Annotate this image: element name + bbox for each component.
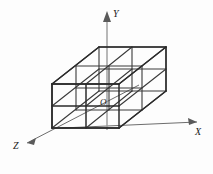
- z-axis: [27, 85, 139, 145]
- origin-label: O: [100, 98, 107, 107]
- axis-label-z: Z: [13, 141, 19, 151]
- cube-lattice-figure: Y X Z O: [0, 0, 213, 174]
- axis-label-y: Y: [113, 9, 119, 19]
- axis-label-x: X: [195, 127, 201, 137]
- y-axis: [103, 11, 111, 130]
- figure-canvas: [0, 0, 213, 174]
